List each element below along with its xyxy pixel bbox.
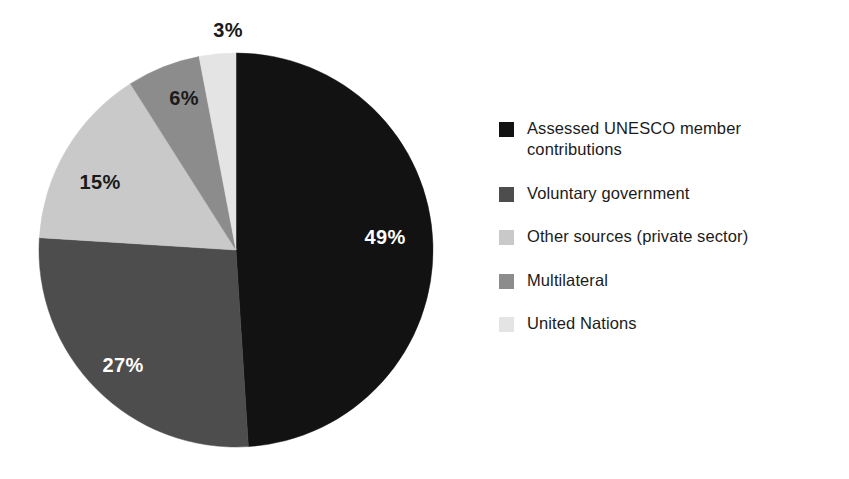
legend-swatch-icon-united-nations (499, 317, 514, 332)
pie-chart-plot-area: 49%27%15%6%3% (0, 0, 480, 479)
pie-slice-value-label-other-sources-private-sector: 15% (80, 172, 121, 192)
pie-slice-value-label-united-nations: 3% (213, 20, 243, 40)
pie-slice-assessed-unesco-member-contributions[interactable] (236, 53, 433, 447)
pie-slice-value-label-voluntary-government: 27% (103, 355, 144, 375)
legend-item-united-nations[interactable]: United Nations (499, 313, 839, 334)
legend-swatch-icon-other-sources-private-sector (499, 230, 514, 245)
pie-slice-voluntary-government[interactable] (39, 238, 248, 447)
chart-legend: Assessed UNESCO member contributionsVolu… (499, 118, 839, 357)
legend-swatch-icon-multilateral (499, 274, 514, 289)
legend-item-label-voluntary-government: Voluntary government (527, 183, 690, 204)
legend-item-voluntary-government[interactable]: Voluntary government (499, 183, 839, 204)
pie-slice-value-label-multilateral: 6% (169, 88, 199, 108)
legend-item-assessed-unesco-member-contributions[interactable]: Assessed UNESCO member contributions (499, 118, 839, 161)
pie-slice-value-label-assessed-unesco-member-contributions: 49% (365, 227, 406, 247)
legend-swatch-icon-voluntary-government (499, 187, 514, 202)
legend-item-label-assessed-unesco-member-contributions: Assessed UNESCO member contributions (527, 118, 839, 161)
legend-item-other-sources-private-sector[interactable]: Other sources (private sector) (499, 226, 839, 247)
pie-chart-figure: 49%27%15%6%3% Assessed UNESCO member con… (0, 0, 849, 479)
legend-item-label-other-sources-private-sector: Other sources (private sector) (527, 226, 748, 247)
legend-item-label-multilateral: Multilateral (527, 270, 608, 291)
legend-swatch-icon-assessed-unesco-member-contributions (499, 122, 514, 137)
legend-item-multilateral[interactable]: Multilateral (499, 270, 839, 291)
pie-chart-svg (0, 0, 480, 479)
legend-item-label-united-nations: United Nations (527, 313, 637, 334)
